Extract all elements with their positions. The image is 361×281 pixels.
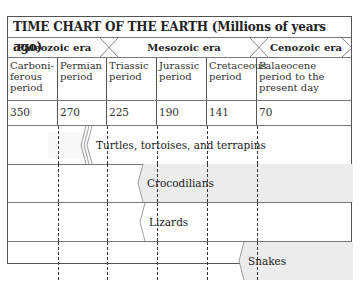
gridline xyxy=(58,164,59,202)
lineage-label-lizards: Lizards xyxy=(149,203,188,241)
gridline xyxy=(157,242,158,280)
gridline xyxy=(58,126,59,164)
gridline xyxy=(58,242,59,280)
mya-triassic: 225 xyxy=(107,101,157,125)
mya-row: 350 270 225 190 141 70 xyxy=(8,101,351,126)
period-cretaceous: Cretaceous period xyxy=(207,58,257,100)
lane-lizards: Lizards xyxy=(8,203,351,242)
gridline xyxy=(58,203,59,241)
gridline xyxy=(157,164,158,202)
period-palaeocene-present: Palaeocene period to the present day xyxy=(257,58,352,100)
period-jurassic: Jurassic period xyxy=(157,58,207,100)
gridline xyxy=(207,242,208,280)
gridline xyxy=(257,126,258,164)
era-paleozoic: Paleozoic era xyxy=(8,38,100,57)
gridline xyxy=(257,203,258,241)
period-triassic: Triassic period xyxy=(107,58,157,100)
gridline xyxy=(207,164,208,202)
period-permian: Permian period xyxy=(58,58,107,100)
era-mesozoic: Mesozoic era xyxy=(118,38,250,57)
gridline xyxy=(107,242,108,280)
mya-jurassic: 190 xyxy=(157,101,207,125)
snakes-bar xyxy=(8,242,353,281)
gridline xyxy=(257,242,258,280)
lane-turtles: Turtles, tortoises, and terrapins xyxy=(8,126,351,165)
gridline xyxy=(107,126,108,164)
period-row: Carboni- ferous period Permian period Tr… xyxy=(8,58,351,101)
lane-crocodilians: Crocodilians xyxy=(8,164,351,203)
lineage-label-snakes: Snakes xyxy=(248,242,286,280)
mya-cretaceous: 141 xyxy=(207,101,257,125)
mya-permian: 270 xyxy=(58,101,107,125)
era-row: Paleozoic era Mesozoic era Cenozoic era xyxy=(8,38,351,58)
gridline xyxy=(207,126,208,164)
gridline xyxy=(207,203,208,241)
lineage-label-turtles: Turtles, tortoises, and terrapins xyxy=(96,126,266,164)
chart-title: TIME CHART OF THE EARTH (Millions of yea… xyxy=(8,17,351,38)
period-carboniferous: Carboni- ferous period xyxy=(8,58,58,100)
gridline xyxy=(157,126,158,164)
gridline xyxy=(107,164,108,202)
lane-snakes: Snakes xyxy=(8,242,351,280)
era-cenozoic: Cenozoic era xyxy=(268,38,344,57)
lineage-lanes: Turtles, tortoises, and terrapins Crocod… xyxy=(8,126,351,264)
gridline xyxy=(107,203,108,241)
gridline xyxy=(257,164,258,202)
time-chart: TIME CHART OF THE EARTH (Millions of yea… xyxy=(7,16,352,264)
gridline xyxy=(157,203,158,241)
mya-carboniferous: 350 xyxy=(8,101,58,125)
mya-palaeocene: 70 xyxy=(257,101,352,125)
